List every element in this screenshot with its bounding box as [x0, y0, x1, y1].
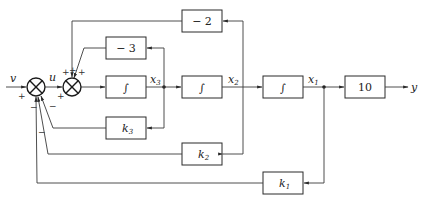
svg-text:− 3: − 3 [116, 42, 136, 55]
gain-block-k1: k1 [263, 172, 303, 194]
state-label-x3: x3 [150, 73, 161, 87]
summing-junction-1 [27, 78, 45, 96]
input-label-v: v [10, 72, 17, 85]
integrator-block-2: ∫ [182, 76, 222, 98]
state-label-x2: x2 [228, 73, 239, 87]
integrator-block-1: ∫ [106, 76, 146, 98]
sign-s2-u: + [57, 91, 65, 101]
line-x3-to-k3 [147, 87, 164, 128]
block-diagram: v + u + + + + ∫ x3 ∫ x2 ∫ x1 [0, 0, 421, 202]
sign-s1-fb3: − [49, 101, 57, 111]
line-x2-to-k2 [223, 148, 243, 154]
sign-s1-fb2: − [38, 127, 46, 137]
line-x1-to-k1 [304, 87, 324, 183]
svg-text:10: 10 [358, 81, 372, 94]
output-label-y: y [410, 81, 418, 94]
svg-text:− 2: − 2 [192, 15, 212, 28]
gain-block-k2: k2 [182, 143, 222, 165]
sign-s1-fb1: − [30, 102, 38, 112]
summing-junction-2 [63, 78, 81, 96]
signal-label-u: u [49, 71, 56, 84]
svg-text:∫: ∫ [199, 82, 205, 95]
svg-text:∫: ∫ [123, 82, 129, 95]
svg-text:∫: ∫ [280, 82, 286, 95]
line-k1-to-s1 [36, 97, 263, 183]
state-label-x1: x1 [308, 73, 319, 87]
sign-s2-top3: + [78, 67, 86, 77]
sign-s1-v: + [18, 91, 26, 101]
gain-block-10: 10 [345, 76, 385, 98]
gain-block-neg2: − 2 [182, 10, 222, 32]
integrator-block-3: ∫ [263, 76, 303, 98]
gain-block-neg3: − 3 [106, 37, 146, 59]
gain-block-k3: k3 [106, 117, 146, 139]
